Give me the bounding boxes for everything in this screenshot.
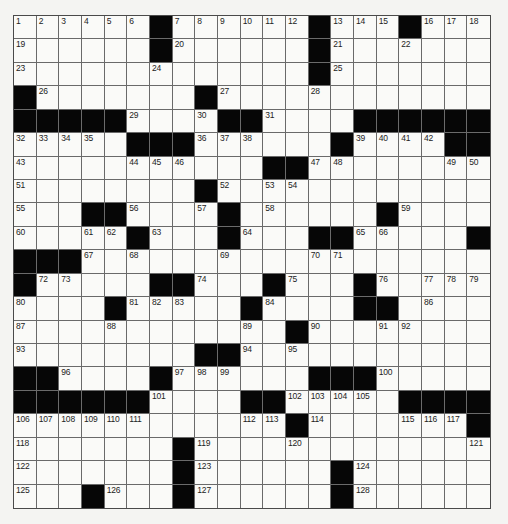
grid-cell[interactable] xyxy=(150,438,173,461)
grid-cell[interactable] xyxy=(173,321,196,344)
grid-cell[interactable]: 35 xyxy=(82,133,105,156)
grid-cell[interactable] xyxy=(309,110,332,133)
grid-cell[interactable] xyxy=(377,250,400,273)
grid-cell[interactable] xyxy=(354,203,377,226)
grid-cell[interactable] xyxy=(105,250,128,273)
grid-cell[interactable] xyxy=(377,63,400,86)
grid-cell[interactable] xyxy=(218,63,241,86)
grid-cell[interactable]: 12 xyxy=(286,16,309,39)
grid-cell[interactable] xyxy=(399,86,422,109)
grid-cell[interactable] xyxy=(467,321,490,344)
grid-cell[interactable]: 48 xyxy=(331,157,354,180)
grid-cell[interactable]: 57 xyxy=(195,203,218,226)
grid-cell[interactable] xyxy=(127,63,150,86)
grid-cell[interactable]: 55 xyxy=(14,203,37,226)
grid-cell[interactable] xyxy=(377,39,400,62)
grid-cell[interactable] xyxy=(309,274,332,297)
grid-cell[interactable] xyxy=(286,63,309,86)
grid-cell[interactable] xyxy=(127,321,150,344)
grid-cell[interactable] xyxy=(286,461,309,484)
grid-cell[interactable] xyxy=(445,203,468,226)
grid-cell[interactable]: 94 xyxy=(241,344,264,367)
grid-cell[interactable] xyxy=(37,461,60,484)
grid-cell[interactable]: 15 xyxy=(377,16,400,39)
grid-cell[interactable] xyxy=(218,297,241,320)
grid-cell[interactable] xyxy=(37,438,60,461)
grid-cell[interactable] xyxy=(218,485,241,508)
grid-cell[interactable] xyxy=(105,180,128,203)
grid-cell[interactable] xyxy=(82,274,105,297)
grid-cell[interactable] xyxy=(422,157,445,180)
grid-cell[interactable] xyxy=(422,438,445,461)
grid-cell[interactable] xyxy=(422,180,445,203)
grid-cell[interactable] xyxy=(377,344,400,367)
grid-cell[interactable]: 105 xyxy=(354,391,377,414)
grid-cell[interactable] xyxy=(467,39,490,62)
grid-cell[interactable] xyxy=(399,438,422,461)
grid-cell[interactable] xyxy=(173,391,196,414)
grid-cell[interactable]: 100 xyxy=(377,367,400,390)
grid-cell[interactable]: 116 xyxy=(422,414,445,437)
grid-cell[interactable] xyxy=(377,86,400,109)
grid-cell[interactable] xyxy=(331,274,354,297)
grid-cell[interactable]: 122 xyxy=(14,461,37,484)
grid-cell[interactable] xyxy=(331,203,354,226)
grid-cell[interactable] xyxy=(422,63,445,86)
grid-cell[interactable]: 46 xyxy=(173,157,196,180)
grid-cell[interactable]: 24 xyxy=(150,63,173,86)
grid-cell[interactable] xyxy=(467,86,490,109)
grid-cell[interactable] xyxy=(263,250,286,273)
grid-cell[interactable]: 61 xyxy=(82,227,105,250)
grid-cell[interactable] xyxy=(195,227,218,250)
grid-cell[interactable] xyxy=(445,227,468,250)
grid-cell[interactable] xyxy=(286,250,309,273)
grid-cell[interactable] xyxy=(59,461,82,484)
grid-cell[interactable]: 125 xyxy=(14,485,37,508)
grid-cell[interactable] xyxy=(241,461,264,484)
grid-cell[interactable]: 97 xyxy=(173,367,196,390)
grid-cell[interactable] xyxy=(37,180,60,203)
grid-cell[interactable] xyxy=(59,39,82,62)
grid-cell[interactable] xyxy=(422,344,445,367)
grid-cell[interactable] xyxy=(150,203,173,226)
grid-cell[interactable] xyxy=(399,485,422,508)
grid-cell[interactable] xyxy=(331,180,354,203)
grid-cell[interactable] xyxy=(59,438,82,461)
grid-cell[interactable]: 9 xyxy=(218,16,241,39)
grid-cell[interactable] xyxy=(150,321,173,344)
grid-cell[interactable] xyxy=(173,110,196,133)
grid-cell[interactable]: 121 xyxy=(467,438,490,461)
grid-cell[interactable] xyxy=(241,157,264,180)
grid-cell[interactable] xyxy=(286,133,309,156)
grid-cell[interactable] xyxy=(105,274,128,297)
grid-cell[interactable]: 83 xyxy=(173,297,196,320)
grid-cell[interactable]: 107 xyxy=(37,414,60,437)
grid-cell[interactable] xyxy=(127,367,150,390)
grid-cell[interactable] xyxy=(263,438,286,461)
grid-cell[interactable] xyxy=(309,180,332,203)
grid-cell[interactable] xyxy=(195,250,218,273)
grid-cell[interactable] xyxy=(286,485,309,508)
grid-cell[interactable] xyxy=(445,86,468,109)
grid-cell[interactable] xyxy=(263,63,286,86)
grid-cell[interactable]: 73 xyxy=(59,274,82,297)
grid-cell[interactable] xyxy=(150,344,173,367)
grid-cell[interactable] xyxy=(331,86,354,109)
grid-cell[interactable]: 40 xyxy=(377,133,400,156)
grid-cell[interactable]: 18 xyxy=(467,16,490,39)
grid-cell[interactable] xyxy=(105,157,128,180)
grid-cell[interactable] xyxy=(445,344,468,367)
grid-cell[interactable] xyxy=(59,157,82,180)
grid-cell[interactable]: 69 xyxy=(218,250,241,273)
grid-cell[interactable] xyxy=(173,203,196,226)
grid-cell[interactable] xyxy=(377,157,400,180)
grid-cell[interactable]: 79 xyxy=(467,274,490,297)
grid-cell[interactable] xyxy=(445,297,468,320)
grid-cell[interactable]: 72 xyxy=(37,274,60,297)
grid-cell[interactable] xyxy=(309,203,332,226)
grid-cell[interactable] xyxy=(82,180,105,203)
grid-cell[interactable] xyxy=(127,485,150,508)
grid-cell[interactable] xyxy=(354,63,377,86)
grid-cell[interactable]: 22 xyxy=(399,39,422,62)
grid-cell[interactable] xyxy=(150,485,173,508)
